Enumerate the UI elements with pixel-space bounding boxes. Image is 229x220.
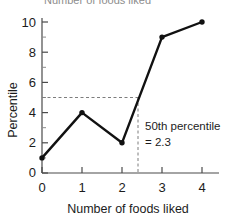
y-tick-label-8: 8 xyxy=(29,45,36,60)
y-tick-label-2: 2 xyxy=(29,135,36,150)
percentile-line-chart: Number of foods liked 0 2 4 6 8 10 0 xyxy=(0,0,229,220)
x-tick-label-2: 2 xyxy=(118,180,125,195)
chart-figure: Number of foods liked 0 2 4 6 8 10 0 xyxy=(0,0,229,220)
median-annotation-line-2: = 2.3 xyxy=(145,136,171,148)
y-axis-title: Percentile xyxy=(6,82,20,138)
median-annotation-line-1: 50th percentile xyxy=(145,120,220,132)
x-axis-title: Number of foods liked xyxy=(67,202,189,216)
y-tick-label-6: 6 xyxy=(29,75,36,90)
data-point-2 xyxy=(119,140,124,145)
y-tick-label-0: 0 xyxy=(29,165,36,180)
x-tick-label-4: 4 xyxy=(198,180,205,195)
series-line-percentile xyxy=(42,22,202,158)
data-point-4 xyxy=(199,19,204,24)
x-tick-label-0: 0 xyxy=(38,180,45,195)
y-tick-label-10: 10 xyxy=(22,15,36,30)
x-tick-label-1: 1 xyxy=(78,180,85,195)
x-tick-label-3: 3 xyxy=(158,180,165,195)
chart-title: Number of foods liked xyxy=(44,0,151,6)
data-point-3 xyxy=(159,34,164,39)
data-point-0 xyxy=(39,155,44,160)
data-point-1 xyxy=(79,110,84,115)
y-tick-label-4: 4 xyxy=(29,105,36,120)
